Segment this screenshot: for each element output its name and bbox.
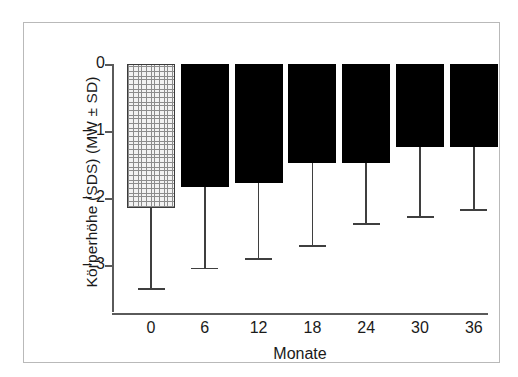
- error-bar-line: [258, 183, 260, 258]
- x-tick-label-0: 0: [123, 319, 179, 337]
- error-bar-cap: [407, 216, 434, 218]
- bar-6-months: [181, 64, 229, 187]
- error-bar-cap: [191, 268, 218, 270]
- error-bar-cap: [299, 245, 326, 247]
- bar-24-months: [342, 64, 390, 163]
- error-bar-cap: [138, 288, 165, 290]
- y-tick-3: [105, 265, 112, 267]
- y-tick-0: [105, 64, 112, 66]
- x-tick-label-30: 30: [392, 319, 448, 337]
- bar-30-months: [396, 64, 444, 147]
- x-tick-label-18: 18: [284, 319, 340, 337]
- y-tick-2: [105, 198, 112, 200]
- error-bar-line: [365, 163, 367, 223]
- error-bar-line: [473, 147, 475, 209]
- error-bar-line: [312, 163, 314, 245]
- x-tick-label-12: 12: [231, 319, 287, 337]
- bar-0-months: [127, 64, 175, 208]
- bar-12-months: [235, 64, 283, 183]
- y-axis-line: [112, 64, 114, 312]
- bar-18-months: [288, 64, 336, 163]
- bar-36-months: [450, 64, 498, 147]
- error-bar-line: [150, 208, 152, 288]
- y-axis-label: Körperhöhe (SDS) (MW ± SD): [83, 52, 101, 312]
- x-tick-label-36: 36: [446, 319, 502, 337]
- figure-frame: 0 – 1 – 2 – 3 061218243036 Monate Körper…: [23, 22, 500, 363]
- x-tick-label-24: 24: [338, 319, 394, 337]
- error-bar-cap: [353, 223, 380, 225]
- x-axis-line: [112, 313, 488, 315]
- error-bar-line: [419, 147, 421, 216]
- error-bar-cap: [460, 209, 487, 211]
- error-bar-cap: [245, 258, 272, 260]
- error-bar-line: [204, 187, 206, 267]
- y-tick-1: [105, 131, 112, 133]
- x-tick-label-6: 6: [177, 319, 233, 337]
- figure-container: 0 – 1 – 2 – 3 061218243036 Monate Körper…: [0, 0, 518, 377]
- x-axis-label: Monate: [112, 345, 488, 363]
